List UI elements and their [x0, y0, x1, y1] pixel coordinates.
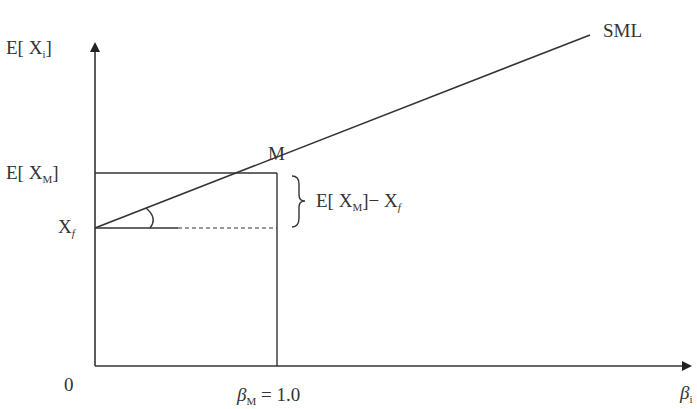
sml-label: SML [603, 20, 642, 42]
x-axis-label: βi [680, 382, 693, 404]
origin-label: 0 [64, 374, 74, 396]
market-return-label: E[ XM] [6, 162, 59, 184]
risk-premium-label: E[ XM]− Xf [316, 190, 401, 212]
risk-free-label: Xf [58, 216, 75, 238]
y-axis-label: E[ Xi] [6, 37, 52, 59]
brace [292, 176, 305, 227]
angle-arc [146, 208, 153, 228]
beta-market-label: βM = 1.0 [237, 384, 300, 406]
market-point-label: M [268, 143, 285, 165]
